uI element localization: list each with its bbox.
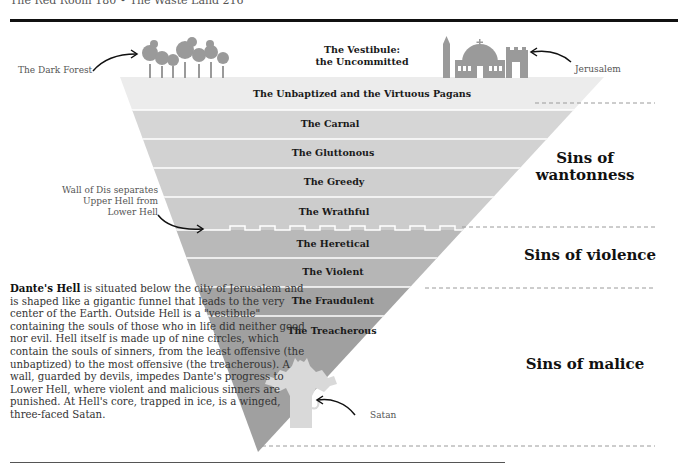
description-lead: Dante's Hell [10,282,80,294]
sins-of-violence: Sins of violence [510,247,670,264]
vestibule-line2: the Uncommitted [302,56,422,68]
description-paragraph: Dante's Hell is situated below the city … [10,282,310,422]
satan-arrow [318,400,355,415]
wall-label-line: Upper Hell from [40,196,158,207]
forest-icon [142,37,229,78]
bottom-rule [10,462,505,463]
sins-line: Sins of [520,150,650,167]
wall-label-line: Wall of Dis separates [40,185,158,196]
circle-label: The Gluttonous [292,147,375,158]
forest-arrow [93,54,136,71]
vestibule-label: The Vestibule: the Uncommitted [302,44,422,68]
sins-line: wantonness [520,167,650,184]
circle-label: The Violent [302,266,364,277]
satan-label: Satan [370,410,396,421]
description-body: is situated below the city of Jerusalem … [10,283,305,420]
circle-label: The Unbaptized and the Virtuous Pagans [253,88,471,99]
sins-of-malice: Sins of malice [515,356,655,373]
wall-of-dis-label: Wall of Dis separates Upper Hell from Lo… [40,185,158,218]
vestibule-line1: The Vestibule: [302,44,422,56]
dark-forest-label: The Dark Forest [18,65,92,76]
circle-label: The Carnal [301,118,360,129]
wall-label-line: Lower Hell [40,207,158,218]
jerusalem-arrow [532,51,571,62]
circle-label: The Heretical [297,238,370,249]
jerusalem-label: Jerusalem [575,64,621,75]
circle-label: The Wrathful [299,206,370,217]
circle-label: The Greedy [304,176,365,187]
jerusalem-icon [443,36,528,78]
sins-of-wantonness: Sins of wantonness [520,150,650,184]
